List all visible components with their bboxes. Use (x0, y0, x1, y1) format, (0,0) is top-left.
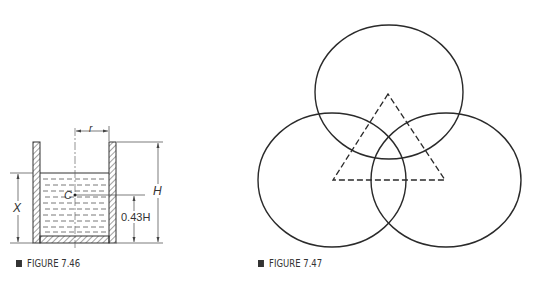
depth-label: X (12, 201, 22, 215)
circles-diagram (258, 25, 521, 247)
tank-right-wall (109, 142, 116, 243)
left-circle (258, 113, 406, 247)
tank-left-wall (33, 142, 40, 243)
caption-bullet-icon (16, 260, 22, 267)
center-label: C (64, 189, 72, 201)
figures-canvas (0, 0, 533, 285)
top-circle (315, 25, 463, 159)
caption-text: FIGURE 7.46 (27, 258, 80, 269)
caption-text: FIGURE 7.47 (269, 258, 322, 269)
figure-caption-7-46: FIGURE 7.46 (16, 258, 80, 269)
caption-bullet-icon (258, 260, 264, 267)
height-label: H (152, 184, 163, 198)
center-height-label: 0.43H (120, 211, 151, 223)
tank-bottom (40, 236, 109, 243)
radius-label: r (89, 123, 92, 134)
figure-caption-7-47: FIGURE 7.47 (258, 258, 322, 269)
tank-diagram (10, 126, 163, 248)
